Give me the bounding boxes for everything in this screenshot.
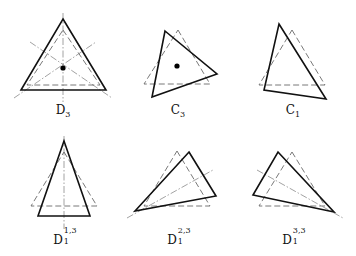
label-D1-1-3: D1,31 <box>53 232 79 246</box>
triangle-symmetry-figure <box>0 0 356 256</box>
transformed-triangle <box>135 152 216 211</box>
label-D1-2-3: D2,31 <box>167 232 193 246</box>
panel-D3 <box>14 13 112 102</box>
rotation-center-dot <box>60 65 65 70</box>
reference-triangle <box>144 30 210 84</box>
label-C3: C3 <box>171 104 185 119</box>
label-C1: C1 <box>286 104 300 119</box>
symmetry-diagram: D3 C3 C1 D1,31 D2,31 D3,31 <box>0 0 356 256</box>
panel-D1_13 <box>31 136 97 229</box>
panel-D1_33 <box>253 152 343 218</box>
transformed-triangle <box>21 19 106 90</box>
reference-triangle <box>144 151 210 206</box>
label-D3: D3 <box>56 104 71 119</box>
reference-triangle <box>259 30 325 85</box>
transformed-triangle <box>253 152 334 212</box>
label-D1-3-3: D3,31 <box>282 232 308 246</box>
panel-C1 <box>259 24 326 99</box>
rotation-center-dot <box>174 63 179 68</box>
panel-D1_23 <box>127 151 216 218</box>
panel-C3 <box>144 30 217 97</box>
reference-triangle <box>27 30 100 85</box>
